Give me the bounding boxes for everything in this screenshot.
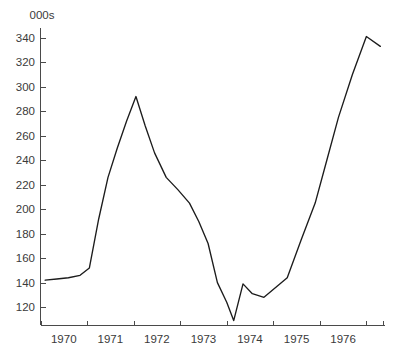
line-chart: 000s 12014016018020022024026028030032034… bbox=[0, 0, 394, 360]
data-line-series-1 bbox=[45, 37, 380, 321]
x-axis-tick-label: 1975 bbox=[284, 333, 310, 345]
y-axis-tick-label: 300 bbox=[16, 81, 35, 93]
chart-canvas: 000s 12014016018020022024026028030032034… bbox=[0, 0, 394, 360]
y-axis-tick-label: 120 bbox=[16, 301, 35, 313]
y-axis-tick-label: 320 bbox=[16, 56, 35, 68]
y-axis-tick-marks bbox=[41, 38, 46, 307]
y-axis-tick-label: 280 bbox=[16, 105, 35, 117]
y-axis-tick-labels: 120140160180200220240260280300320340 bbox=[16, 32, 35, 313]
x-axis-tick-label: 1971 bbox=[98, 333, 124, 345]
x-axis-tick-label: 1973 bbox=[191, 333, 217, 345]
x-axis-tick-label: 1976 bbox=[330, 333, 356, 345]
x-axis-tick-marks bbox=[42, 321, 384, 326]
y-axis-tick-label: 160 bbox=[16, 252, 35, 264]
y-axis-tick-label: 340 bbox=[16, 32, 35, 44]
x-axis-tick-label: 1972 bbox=[144, 333, 170, 345]
y-axis-tick-label: 180 bbox=[16, 228, 35, 240]
x-axis-tick-label: 1974 bbox=[237, 333, 263, 345]
y-axis-tick-label: 200 bbox=[16, 203, 35, 215]
y-axis-tick-label: 140 bbox=[16, 277, 35, 289]
y-axis-tick-label: 240 bbox=[16, 154, 35, 166]
x-axis-tick-label: 1970 bbox=[51, 333, 77, 345]
x-axis-tick-labels: 1970197119721973197419751976 bbox=[51, 333, 356, 345]
y-axis-tick-label: 260 bbox=[16, 130, 35, 142]
y-axis-tick-label: 220 bbox=[16, 179, 35, 191]
unit-label: 000s bbox=[30, 9, 55, 21]
